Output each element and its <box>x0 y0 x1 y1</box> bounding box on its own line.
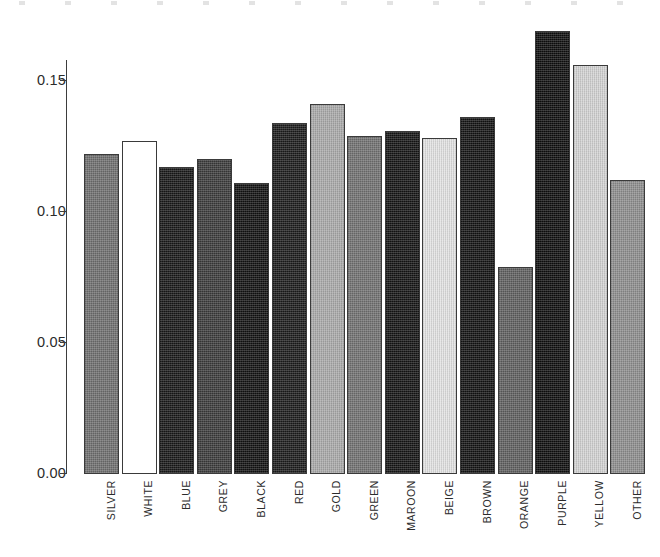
x-axis-labels: SILVERWHITEBLUEGREYBLACKREDGOLDGREENMARO… <box>0 474 660 557</box>
x-axis-label-beige: BEIGE <box>444 480 455 557</box>
x-axis-label-silver: SILVER <box>106 480 117 557</box>
x-axis-label-other: OTHER <box>632 480 643 557</box>
bar-gold <box>310 104 345 474</box>
bar-blue <box>159 167 194 474</box>
x-axis-label-purple: PURPLE <box>557 480 568 557</box>
x-axis-label-orange: ORANGE <box>519 480 530 557</box>
x-axis-label-red: RED <box>294 480 305 557</box>
bar-maroon <box>385 131 420 475</box>
bar-silver <box>84 154 119 474</box>
x-axis-label-brown: BROWN <box>482 480 493 557</box>
x-axis-label-grey: GREY <box>218 480 229 557</box>
x-axis-label-black: BLACK <box>256 480 267 557</box>
bar-beige <box>422 138 457 474</box>
bar-other <box>610 180 645 474</box>
bar-black <box>234 183 269 474</box>
bar-chart: 0.000.050.100.15 SILVERWHITEBLUEGREYBLAC… <box>0 0 660 557</box>
bar-green <box>347 136 382 474</box>
bar-yellow <box>573 65 608 474</box>
bar-orange <box>498 267 533 474</box>
x-axis-label-yellow: YELLOW <box>594 480 605 557</box>
bar-white <box>122 141 157 474</box>
x-axis-label-gold: GOLD <box>331 480 342 557</box>
x-axis-label-white: WHITE <box>143 480 154 557</box>
plot-area <box>0 0 660 474</box>
bar-red <box>272 123 307 474</box>
bar-purple <box>535 31 570 474</box>
bar-grey <box>197 159 232 474</box>
x-axis-label-green: GREEN <box>369 480 380 557</box>
x-axis-label-blue: BLUE <box>181 480 192 557</box>
bar-brown <box>460 117 495 474</box>
x-axis-label-maroon: MAROON <box>406 480 417 557</box>
